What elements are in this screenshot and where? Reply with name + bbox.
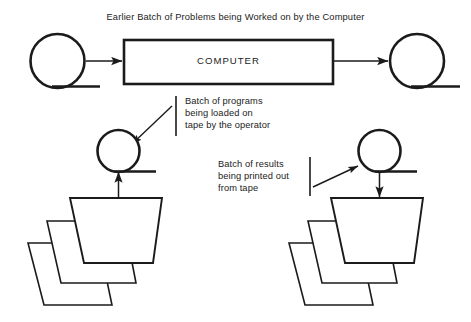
card-deck-icon-left-front [70, 198, 162, 263]
annotation-label-loading: Batch of programs being loaded on tape b… [185, 95, 270, 131]
annotation-label-printing: Batch of results being printed out from … [218, 158, 289, 194]
leader-arrow-icon-printing [313, 166, 358, 187]
tape-reel-icon-output [390, 34, 460, 88]
batch-processing-diagram: Earlier Batch of Problems being Worked o… [0, 0, 471, 322]
tape-reel-icon-program-tape [98, 130, 157, 172]
card-deck-icon-right-front [331, 198, 423, 263]
diagram-title: Earlier Batch of Problems being Worked o… [0, 11, 471, 23]
computer-box-label: COMPUTER [124, 55, 333, 67]
leader-arrow-icon-loading [132, 106, 172, 144]
tape-reel-icon-results-tape [359, 130, 418, 172]
